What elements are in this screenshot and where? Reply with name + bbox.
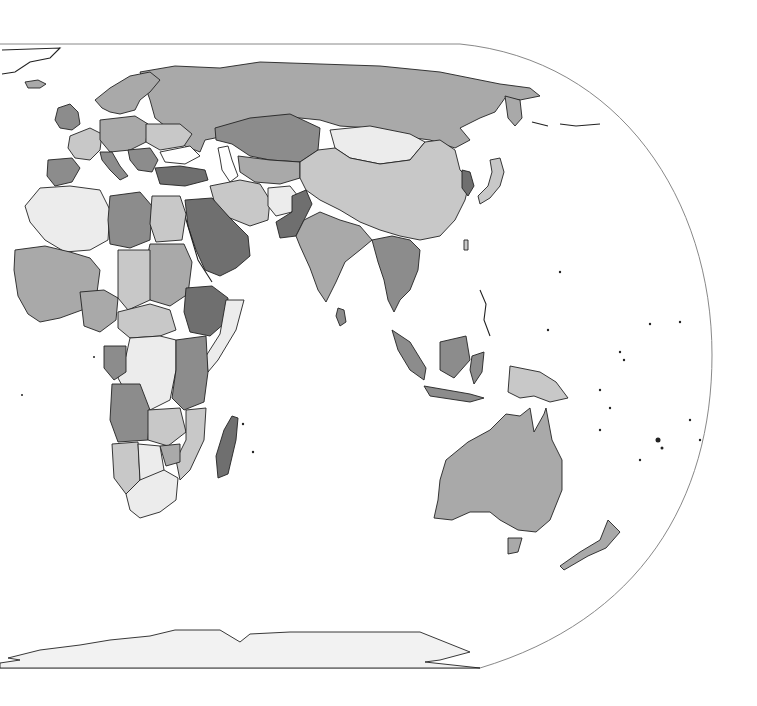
region-libya[interactable]: [108, 192, 152, 248]
region-tanzania[interactable]: [172, 336, 208, 410]
world-map: [0, 0, 757, 706]
region-taiwan[interactable]: [464, 240, 468, 250]
region-chad[interactable]: [118, 250, 150, 310]
region-egypt[interactable]: [150, 196, 186, 242]
